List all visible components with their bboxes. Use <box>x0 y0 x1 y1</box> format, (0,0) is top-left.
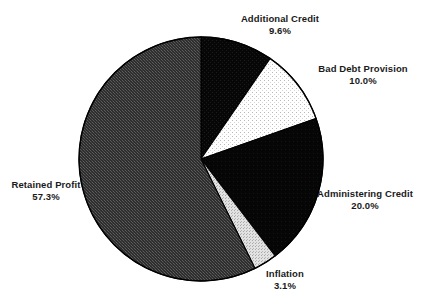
slice-label-name: Bad Debt Provision <box>300 63 426 75</box>
slice-label-name: Inflation <box>248 268 322 280</box>
slice-label-name: Additional Credit <box>222 13 338 25</box>
slice-label-name: Retained Profit <box>8 179 84 191</box>
slice-label-inflation: Inflation 3.1% <box>248 268 322 291</box>
pie-chart-figure: Additional Credit 9.6% Bad Debt Provisio… <box>0 0 428 306</box>
slice-label-value: 9.6% <box>222 25 338 37</box>
slice-label-administering-credit: Administering Credit 20.0% <box>302 188 428 211</box>
slice-label-name: Administering Credit <box>302 188 428 200</box>
pie-chart-svg <box>0 0 428 306</box>
slice-label-bad-debt-provision: Bad Debt Provision 10.0% <box>300 63 426 86</box>
slice-label-additional-credit: Additional Credit 9.6% <box>222 13 338 36</box>
slice-label-value: 20.0% <box>302 200 428 212</box>
slice-label-retained-profit: Retained Profit 57.3% <box>8 179 84 202</box>
pie-slices-group <box>79 37 323 281</box>
slice-label-value: 10.0% <box>300 75 426 87</box>
slice-label-value: 57.3% <box>8 191 84 203</box>
slice-label-value: 3.1% <box>248 280 322 292</box>
